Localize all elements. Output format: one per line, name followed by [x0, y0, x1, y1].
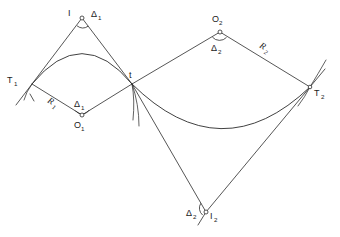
- angle-marker-delta2-at-O2: [212, 37, 226, 40]
- arc-stub-beyond-T2: [310, 60, 326, 87]
- vertex-dot-I2: [204, 210, 208, 214]
- label-delta2-at-O2-base: Δ: [211, 43, 217, 53]
- arc-stub-beyond-T1: [24, 84, 32, 100]
- label-O1-sub: 1: [81, 125, 85, 132]
- label-tangent-point-T2: T 2: [314, 88, 325, 100]
- label-I2-base: I: [210, 211, 213, 221]
- angle-marker-delta1-at-I: [77, 26, 88, 28]
- diagram-canvas: I Δ 1 T 1 R 1 Δ 1 O 1 t O 2: [0, 0, 340, 237]
- label-radius-R2: R 2: [256, 40, 272, 56]
- vertex-dot-O1: [80, 113, 84, 117]
- label-radius-R1: R 1: [44, 95, 60, 111]
- label-delta1-at-I-sub: 1: [98, 14, 102, 21]
- label-delta2-at-O2-sub: 2: [218, 48, 222, 55]
- label-delta1-at-I-base: Δ: [91, 9, 97, 19]
- label-apex-I2: I 2: [210, 211, 218, 223]
- label-delta2-at-I2-sub: 2: [193, 213, 197, 220]
- tangent-line-T1-to-I: [32, 18, 82, 84]
- tangent-line-I-to-t: [82, 18, 132, 84]
- tick-mark-T1: [30, 94, 34, 101]
- label-delta1-at-O1: Δ 1: [74, 99, 85, 111]
- label-O2-base: O: [212, 14, 219, 24]
- tangent-line-t-to-I2: [132, 84, 206, 212]
- label-delta2-at-O2: Δ 2: [211, 43, 222, 55]
- label-delta1-at-I: Δ 1: [91, 9, 102, 21]
- radius-line-O1-to-t: [82, 84, 132, 115]
- reverse-curve-diagram: I Δ 1 T 1 R 1 Δ 1 O 1 t O 2: [0, 0, 340, 237]
- label-delta2-at-I2: Δ 2: [186, 208, 197, 220]
- arc-curve-1: [32, 54, 132, 85]
- label-I2-sub: 2: [214, 216, 218, 223]
- radius-line-t-to-O2: [132, 32, 220, 84]
- arc-curve-2: [132, 84, 310, 129]
- label-delta1-at-O1-sub: 1: [81, 104, 85, 111]
- vertex-dot-T2: [308, 85, 312, 89]
- label-T2-base: T: [314, 88, 320, 98]
- label-O1-base: O: [74, 120, 81, 130]
- label-apex-I: I: [68, 8, 71, 18]
- label-O2-sub: 2: [219, 19, 223, 26]
- tangent-line-I2-to-T2: [206, 87, 310, 212]
- label-center-O1: O 1: [74, 120, 85, 132]
- label-T1-sub: 1: [14, 80, 18, 87]
- label-delta2-at-I2-base: Δ: [186, 208, 192, 218]
- label-center-O2: O 2: [212, 14, 223, 26]
- tangent-extension-beyond-T2: [310, 69, 325, 87]
- label-common-point-t: t: [129, 70, 132, 80]
- label-T1-base: T: [7, 75, 13, 85]
- label-tangent-point-T1: T 1: [7, 75, 18, 87]
- vertex-dot-I: [80, 16, 84, 20]
- vertex-dot-O2: [218, 30, 222, 34]
- label-delta1-at-O1-base: Δ: [74, 99, 80, 109]
- label-T2-sub: 2: [321, 93, 325, 100]
